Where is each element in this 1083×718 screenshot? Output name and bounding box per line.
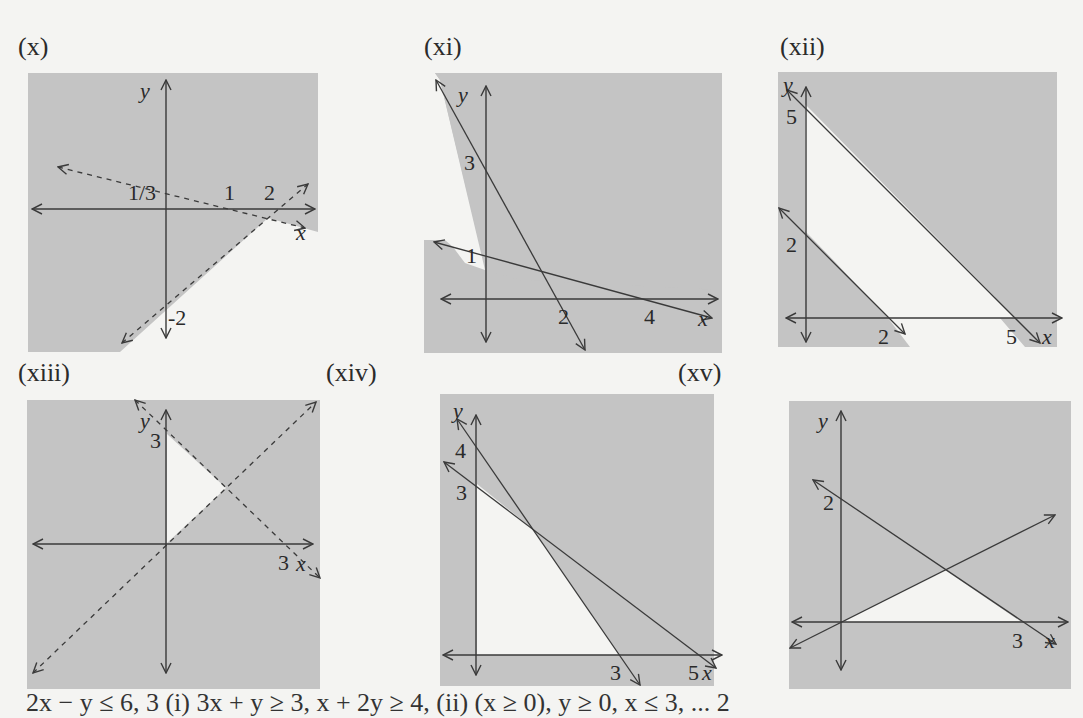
tick-label: 1/3 bbox=[128, 180, 156, 205]
tick-label: 1 bbox=[224, 180, 235, 205]
tick-label: 3 bbox=[456, 480, 467, 505]
x-axis-label: x bbox=[295, 551, 306, 576]
tick-label: 4 bbox=[644, 304, 655, 329]
graph-panel-xv: y x 2 3 bbox=[789, 401, 1071, 689]
graph-panel-xii: y x 5 2 2 5 bbox=[778, 72, 1062, 349]
y-axis-label: y bbox=[138, 78, 150, 103]
x-axis-label: x bbox=[701, 660, 712, 685]
tick-label: 1 bbox=[466, 243, 477, 268]
tick-label: 2 bbox=[264, 180, 275, 205]
y-axis-label: y bbox=[451, 398, 463, 423]
x-axis-label: x bbox=[1041, 324, 1052, 349]
tick-label: 3 bbox=[610, 660, 621, 685]
tick-label: 3 bbox=[278, 550, 289, 575]
tick-label: 3 bbox=[150, 428, 161, 453]
tick-label: 2 bbox=[823, 490, 834, 515]
graph-panel-xi: y x 3 1 2 4 bbox=[424, 73, 722, 353]
x-axis-label: x bbox=[697, 306, 708, 331]
x-axis-label: x bbox=[295, 220, 306, 245]
x-axis-label: x bbox=[1044, 628, 1055, 653]
tick-label: 5 bbox=[786, 104, 797, 129]
y-axis-label: y bbox=[138, 408, 150, 433]
y-axis-label: y bbox=[816, 408, 828, 433]
tick-label: 3 bbox=[1012, 628, 1023, 653]
shaded-region bbox=[789, 401, 1071, 689]
tick-label: 2 bbox=[878, 324, 889, 349]
tick-label: 3 bbox=[464, 150, 475, 175]
tick-label: 4 bbox=[455, 438, 466, 463]
graph-panel-x: y x 1/3 1 2 -2 bbox=[28, 73, 318, 352]
shaded-region bbox=[435, 73, 722, 290]
tick-label: 5 bbox=[1006, 324, 1017, 349]
tick-label: -2 bbox=[168, 305, 186, 330]
tick-label: 2 bbox=[558, 304, 569, 329]
cut-off-text-line: 2x − y ≤ 6, 3 (i) 3x + y ≥ 3, x + 2y ≥ 4… bbox=[26, 688, 730, 718]
tick-label: 2 bbox=[786, 232, 797, 257]
tick-label: 5 bbox=[688, 660, 699, 685]
graph-panel-xiii: y x 3 3 bbox=[27, 400, 320, 689]
graph-panel-xiv: y x 4 3 3 5 bbox=[440, 394, 722, 686]
y-axis-label: y bbox=[456, 82, 468, 107]
y-axis-label: y bbox=[781, 72, 793, 97]
